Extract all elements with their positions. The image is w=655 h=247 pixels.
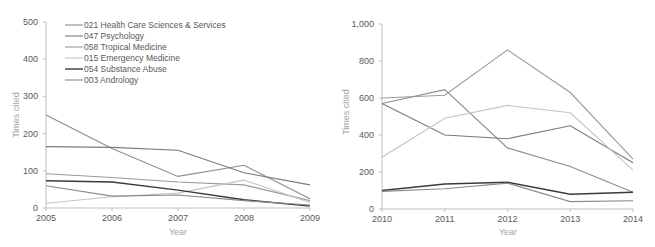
right-chart: 02004006008001,000 20102011201220132014 … bbox=[341, 19, 643, 237]
y-tick-label: 1,000 bbox=[351, 19, 374, 29]
x-tick-label: 2005 bbox=[36, 213, 56, 223]
right-x-axis-label: Year bbox=[499, 227, 517, 237]
series-line bbox=[382, 183, 633, 202]
y-tick-label: 600 bbox=[359, 93, 374, 103]
series-line bbox=[46, 115, 310, 199]
legend-label: 003 Andrology bbox=[84, 75, 139, 85]
right-y-ticks: 02004006008001,000 bbox=[351, 19, 382, 214]
left-chart: 0100200300400500 20052006200720082009 Ti… bbox=[11, 17, 320, 237]
charts-canvas: 0100200300400500 20052006200720082009 Ti… bbox=[0, 0, 655, 247]
x-tick-label: 2010 bbox=[372, 214, 392, 224]
x-tick-label: 2012 bbox=[497, 214, 517, 224]
legend-label: 058 Tropical Medicine bbox=[84, 42, 167, 52]
legend-label: 047 Psychology bbox=[84, 31, 145, 41]
x-tick-label: 2009 bbox=[300, 213, 320, 223]
y-tick-label: 300 bbox=[23, 91, 38, 101]
legend-label: 015 Emergency Medicine bbox=[84, 53, 180, 63]
right-x-ticks: 20102011201220132014 bbox=[372, 209, 643, 224]
y-tick-label: 400 bbox=[359, 130, 374, 140]
x-tick-label: 2011 bbox=[435, 214, 454, 224]
legend-label: 021 Health Care Sciences & Services bbox=[84, 20, 226, 30]
legend: 021 Health Care Sciences & Services047 P… bbox=[65, 20, 226, 85]
left-x-ticks: 20052006200720082009 bbox=[36, 208, 320, 223]
x-tick-label: 2006 bbox=[102, 213, 122, 223]
x-tick-label: 2008 bbox=[234, 213, 254, 223]
series-line bbox=[382, 104, 633, 163]
legend-label: 054 Substance Abuse bbox=[84, 64, 167, 74]
series-line bbox=[382, 182, 633, 194]
y-tick-label: 500 bbox=[23, 17, 38, 27]
left-series-lines bbox=[46, 115, 310, 206]
y-tick-label: 400 bbox=[23, 54, 38, 64]
x-tick-label: 2014 bbox=[623, 214, 643, 224]
right-y-axis-label: Times cited bbox=[341, 89, 351, 135]
series-line bbox=[382, 50, 633, 159]
x-tick-label: 2013 bbox=[560, 214, 580, 224]
right-series-lines bbox=[382, 50, 633, 202]
y-tick-label: 0 bbox=[33, 203, 38, 213]
y-tick-label: 200 bbox=[359, 167, 374, 177]
y-tick-label: 200 bbox=[23, 129, 38, 139]
y-tick-label: 800 bbox=[359, 56, 374, 66]
y-tick-label: 0 bbox=[369, 204, 374, 214]
y-tick-label: 100 bbox=[23, 166, 38, 176]
series-line bbox=[382, 105, 633, 170]
left-y-axis-label: Times cited bbox=[11, 92, 21, 138]
x-tick-label: 2007 bbox=[168, 213, 188, 223]
left-x-axis-label: Year bbox=[169, 227, 187, 237]
left-y-ticks: 0100200300400500 bbox=[23, 17, 46, 213]
